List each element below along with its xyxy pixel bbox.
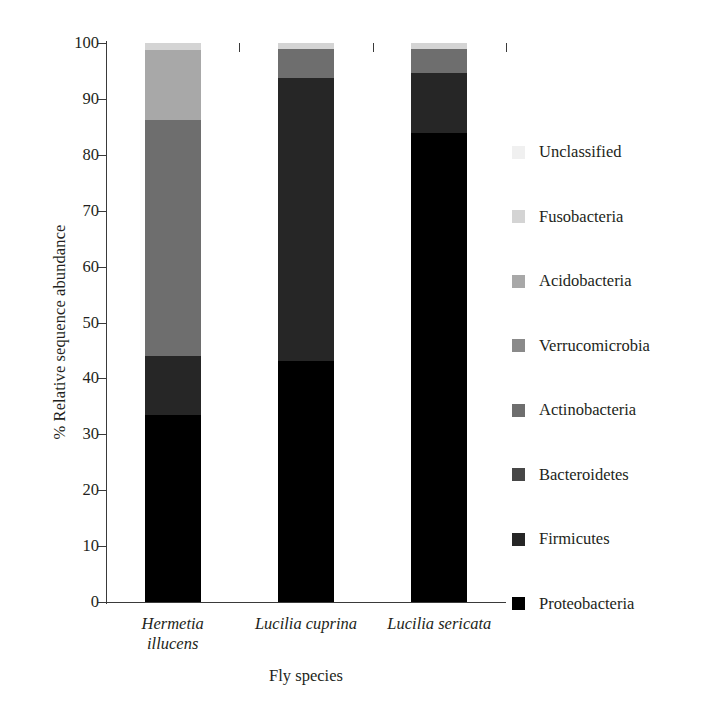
legend-swatch-icon xyxy=(512,146,525,159)
y-tick-mark xyxy=(98,490,106,491)
legend-label: Unclassified xyxy=(539,144,621,161)
y-tick-label: 90 xyxy=(83,91,100,108)
bar-segment[interactable] xyxy=(145,50,201,120)
legend-swatch-icon xyxy=(512,210,525,223)
legend-swatch-icon xyxy=(512,404,525,417)
y-tick-label: 60 xyxy=(83,258,100,275)
x-axis-line xyxy=(106,602,506,603)
legend-item-unclassified[interactable]: Unclassified xyxy=(512,120,702,185)
y-tick-label: 100 xyxy=(74,35,99,52)
x-tick-mark xyxy=(106,43,107,52)
y-tick-mark xyxy=(98,99,106,100)
legend-swatch-icon xyxy=(512,468,525,481)
x-tick-label: Lucilia sericata xyxy=(354,614,524,634)
y-tick-mark xyxy=(98,211,106,212)
legend-item-verrucomicrobia[interactable]: Verrucomicrobia xyxy=(512,314,702,379)
bar-segment[interactable] xyxy=(278,49,334,79)
legend-item-fusobacteria[interactable]: Fusobacteria xyxy=(512,185,702,250)
y-tick-label: 10 xyxy=(83,538,100,555)
bar-2[interactable] xyxy=(278,43,334,602)
bar-segment[interactable] xyxy=(145,356,201,415)
bar-segment[interactable] xyxy=(411,73,467,133)
x-tick-mark xyxy=(239,43,240,52)
legend-swatch-icon xyxy=(512,533,525,546)
legend-label: Actinobacteria xyxy=(539,402,636,419)
y-tick-label: 20 xyxy=(83,482,100,499)
y-tick-mark xyxy=(98,323,106,324)
bar-segment[interactable] xyxy=(145,120,201,356)
y-tick-mark xyxy=(98,267,106,268)
y-tick-label: 80 xyxy=(83,147,100,164)
bar-segment[interactable] xyxy=(411,49,467,74)
bar-segment[interactable] xyxy=(278,78,334,361)
legend-swatch-icon xyxy=(512,339,525,352)
legend-label: Proteobacteria xyxy=(539,596,634,613)
legend-label: Verrucomicrobia xyxy=(539,338,650,355)
bar-1[interactable] xyxy=(145,43,201,602)
plot-area: 0102030405060708090100 xyxy=(106,43,506,602)
bar-segment[interactable] xyxy=(145,43,201,50)
y-tick-label: 0 xyxy=(91,594,99,611)
y-tick-label: 50 xyxy=(83,314,100,331)
legend-swatch-icon xyxy=(512,597,525,610)
y-tick-mark xyxy=(98,155,106,156)
y-tick-mark xyxy=(98,602,106,603)
bar-segment[interactable] xyxy=(411,133,467,602)
y-tick-mark xyxy=(98,43,106,44)
x-axis-title: Fly species xyxy=(106,666,506,686)
y-axis-title: % Relative sequence abundance xyxy=(50,122,70,542)
x-tick-mark xyxy=(506,43,507,52)
y-tick-label: 40 xyxy=(83,370,100,387)
y-tick-mark xyxy=(98,546,106,547)
legend-item-actinobacteria[interactable]: Actinobacteria xyxy=(512,378,702,443)
legend-swatch-icon xyxy=(512,275,525,288)
x-tick-mark xyxy=(373,43,374,52)
legend-item-acidobacteria[interactable]: Acidobacteria xyxy=(512,249,702,314)
y-tick-mark xyxy=(98,434,106,435)
legend-item-firmicutes[interactable]: Firmicutes xyxy=(512,507,702,572)
y-tick-label: 30 xyxy=(83,426,100,443)
legend-label: Acidobacteria xyxy=(539,273,632,290)
legend-item-proteobacteria[interactable]: Proteobacteria xyxy=(512,572,702,637)
stacked-bar-chart-figure: % Relative sequence abundance 0102030405… xyxy=(0,0,706,715)
x-tick-label-line: Lucilia sericata xyxy=(354,614,524,634)
legend-item-bacteroidetes[interactable]: Bacteroidetes xyxy=(512,443,702,508)
chart-legend: UnclassifiedFusobacteriaAcidobacteriaVer… xyxy=(512,120,702,636)
legend-label: Firmicutes xyxy=(539,531,610,548)
y-tick-label: 70 xyxy=(83,202,100,219)
y-tick-mark xyxy=(98,378,106,379)
x-tick-label-line: illucens xyxy=(88,634,258,654)
legend-label: Bacteroidetes xyxy=(539,467,629,484)
legend-label: Fusobacteria xyxy=(539,209,623,226)
bar-3[interactable] xyxy=(411,43,467,602)
bar-segment[interactable] xyxy=(278,361,334,602)
bar-segment[interactable] xyxy=(145,415,201,602)
